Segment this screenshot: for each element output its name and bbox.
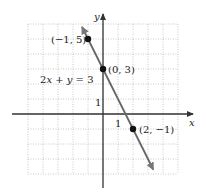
y-tick-label: 1 — [95, 97, 101, 108]
x-axis-label: x — [189, 117, 195, 128]
y-axis-label: y — [93, 11, 100, 22]
point-label: (2, −1) — [139, 124, 174, 135]
coordinate-plane: x y 1 1 2x + y = 3 (−1, 5)(0, 3)(2, −1) — [0, 0, 206, 196]
point-label: (0, 3) — [108, 64, 135, 75]
equation-label: 2x + y = 3 — [40, 74, 94, 85]
point-marker — [100, 66, 106, 72]
point-label: (−1, 5) — [51, 34, 86, 45]
equation-line — [82, 27, 153, 170]
x-tick-label: 1 — [115, 118, 121, 129]
point-marker — [130, 126, 136, 132]
